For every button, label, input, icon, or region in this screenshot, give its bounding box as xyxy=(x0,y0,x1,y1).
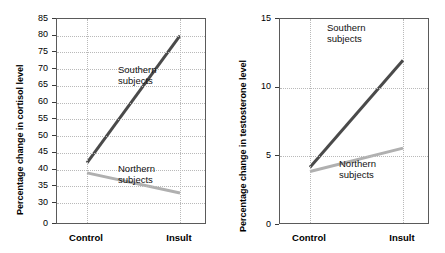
plot-area-cortisol xyxy=(56,18,206,224)
y-tick-mark xyxy=(52,152,56,153)
annotation-northern-cortisol: Northern subjects xyxy=(118,163,155,185)
annotation-southern-line1: Southern xyxy=(118,64,157,75)
annotation-southern-testosterone: Southern subjects xyxy=(327,22,366,44)
annotation-northern-line2: subjects xyxy=(118,174,155,185)
plot-area-testosterone xyxy=(279,18,429,224)
y-tick-mark xyxy=(52,35,56,36)
gridline-horizontal xyxy=(57,36,205,37)
y-tick-mark xyxy=(52,135,56,136)
y-tick-mark xyxy=(52,85,56,86)
gridline-horizontal xyxy=(57,103,205,104)
y-tick-label: 35 xyxy=(38,181,48,190)
y-tick-mark xyxy=(52,202,56,203)
y-tick-label: 15 xyxy=(261,14,271,23)
y-tick-mark xyxy=(52,223,56,224)
y-tick-label: 0 xyxy=(266,220,271,229)
y-tick-label: 75 xyxy=(38,47,48,56)
gridline-horizontal xyxy=(57,52,205,53)
y-axis-title-testosterone: Percentage change in testosterone level xyxy=(238,60,248,232)
annotation-northern-line1: Northern xyxy=(339,158,376,169)
gridline-horizontal xyxy=(57,136,205,137)
y-tick-label: 70 xyxy=(38,64,48,73)
y-tick-label: 85 xyxy=(38,14,48,23)
y-tick-label: 10 xyxy=(261,82,271,91)
annotation-southern-line2: subjects xyxy=(327,33,366,44)
annotation-southern-line1: Southern xyxy=(327,22,366,33)
x-tick-label: Insult xyxy=(166,232,191,243)
x-tick-label: Insult xyxy=(389,232,414,243)
gridline-vertical xyxy=(87,19,88,223)
y-tick-label: 80 xyxy=(38,30,48,39)
y-tick-mark xyxy=(52,51,56,52)
series-line xyxy=(87,36,180,163)
annotation-northern-line2: subjects xyxy=(339,169,376,180)
y-tick-label: 5 xyxy=(266,151,271,160)
gridline-horizontal xyxy=(280,88,428,89)
series-lines-testosterone xyxy=(280,19,429,224)
y-tick-mark xyxy=(52,102,56,103)
figure-container: Percentage change in cortisol level 8580… xyxy=(0,0,445,253)
gridline-horizontal xyxy=(57,153,205,154)
y-tick-mark xyxy=(275,87,279,88)
gridline-horizontal xyxy=(57,119,205,120)
y-axis-title-cortisol: Percentage change in cortisol level xyxy=(15,64,25,215)
x-tick-label: Control xyxy=(69,232,103,243)
y-tick-label: 55 xyxy=(38,114,48,123)
y-tick-mark xyxy=(275,18,279,19)
annotation-southern-cortisol: Southern subjects xyxy=(118,64,157,86)
annotation-southern-line2: subjects xyxy=(118,75,157,86)
y-tick-mark xyxy=(52,68,56,69)
y-tick-label: 50 xyxy=(38,131,48,140)
gridline-vertical xyxy=(180,19,181,223)
y-tick-label: 30 xyxy=(38,198,48,207)
y-tick-label: 45 xyxy=(38,147,48,156)
gridline-horizontal xyxy=(57,86,205,87)
y-tick-mark xyxy=(275,155,279,156)
x-tick-label: Control xyxy=(292,232,326,243)
gridline-horizontal xyxy=(57,203,205,204)
y-tick-label: 65 xyxy=(38,80,48,89)
y-tick-mark xyxy=(52,118,56,119)
annotation-northern-testosterone: Northern subjects xyxy=(339,158,376,180)
chart-panel-cortisol: Percentage change in cortisol level 8580… xyxy=(0,0,222,253)
y-tick-label: 0 xyxy=(43,219,48,228)
y-tick-label: 60 xyxy=(38,97,48,106)
y-tick-mark xyxy=(52,169,56,170)
gridline-vertical xyxy=(310,19,311,223)
y-tick-mark xyxy=(52,18,56,19)
y-tick-label: 40 xyxy=(38,164,48,173)
gridline-horizontal xyxy=(57,186,205,187)
annotation-northern-line1: Northern xyxy=(118,163,155,174)
series-lines-cortisol xyxy=(57,19,206,224)
y-tick-mark xyxy=(275,224,279,225)
y-tick-mark xyxy=(52,185,56,186)
chart-panel-testosterone: Percentage change in testosterone level … xyxy=(223,0,445,253)
gridline-vertical xyxy=(403,19,404,223)
